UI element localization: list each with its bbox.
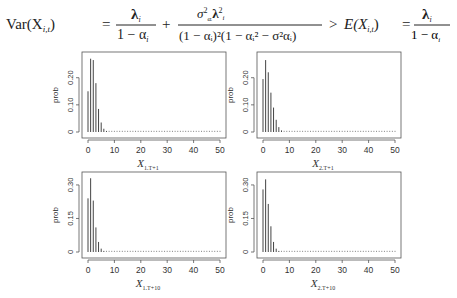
plot-frame (257, 172, 401, 258)
y-tick-label: 0.30 (241, 178, 250, 193)
frac2-numerator: σ2αᵢλ2i (197, 6, 225, 23)
x-tick-label: 50 (390, 145, 400, 155)
plot-frame (257, 52, 401, 138)
y-tick-label: 0 (241, 130, 250, 134)
plot-frame (82, 172, 226, 258)
equals-sign: = (102, 16, 110, 32)
x-tick-label: 10 (110, 145, 120, 155)
y-tick-label: 0.10 (241, 98, 250, 113)
y-axis-label: prob (226, 206, 235, 223)
x-tick-label: 0 (261, 145, 266, 155)
x-tick-label: 0 (86, 145, 91, 155)
y-tick-label: 0.20 (241, 70, 250, 85)
y-tick-label: 0.20 (66, 70, 75, 85)
frac3-numerator: λi (422, 6, 432, 24)
x-tick-label: 0 (86, 265, 91, 275)
x-tick-label: 50 (390, 265, 400, 275)
x-tick-label: 10 (110, 265, 120, 275)
formula-lhs: Var(Xi,t) (6, 16, 55, 34)
variance-formula: Var(Xi,t) = λi 1 − αi + σ2αᵢλ2i (1 − αᵢ)… (4, 4, 456, 44)
x-tick-label: 50 (215, 145, 225, 155)
x-axis-label: X1,T+1 (136, 157, 158, 170)
y-tick-label: 0.15 (66, 211, 75, 226)
y-tick-label: 0.30 (66, 178, 75, 193)
greater-than-sign: > (329, 16, 337, 32)
y-tick-label: 0.10 (66, 98, 75, 113)
x-tick-label: 10 (285, 145, 295, 155)
x-axis-label: X1,T+10 (135, 277, 160, 290)
frac1-denominator: 1 − αi (117, 27, 148, 44)
x-tick-label: 20 (136, 145, 146, 155)
x-tick-label: 20 (311, 145, 321, 155)
plus-sign: + (162, 16, 170, 32)
plot-frame (82, 52, 226, 138)
x-tick-label: 0 (261, 265, 266, 275)
frac2-denominator: (1 − αᵢ)²(1 − αᵢ² − σ²αᵢ) (179, 28, 296, 43)
x-tick-label: 10 (285, 265, 295, 275)
expectation: E(Xi,t) (343, 16, 379, 34)
y-tick-label: 0 (241, 250, 250, 254)
y-tick-label: 0.15 (241, 211, 250, 226)
y-tick-label: 0 (66, 250, 75, 254)
x-tick-label: 30 (337, 265, 347, 275)
pmf-plot-x2-t1: 0102030405000.100.20probX2,T+1 (225, 50, 405, 174)
x-axis-label: X2,T+10 (310, 277, 335, 290)
x-tick-label: 40 (189, 265, 199, 275)
x-tick-label: 40 (364, 145, 374, 155)
y-axis-label: prob (51, 86, 60, 103)
bars (263, 60, 395, 132)
y-axis-label: prob (226, 86, 235, 103)
x-tick-label: 40 (364, 265, 374, 275)
equals-sign-2: = (402, 16, 410, 32)
x-tick-label: 50 (215, 265, 225, 275)
bars (88, 59, 220, 132)
y-tick-label: 0 (66, 130, 75, 134)
y-axis-label: prob (51, 206, 60, 223)
bars (263, 179, 395, 252)
x-tick-label: 30 (337, 145, 347, 155)
x-tick-label: 20 (136, 265, 146, 275)
x-axis-label: X2,T+1 (311, 157, 333, 170)
x-tick-label: 30 (162, 145, 172, 155)
bars (88, 178, 220, 252)
x-tick-label: 30 (162, 265, 172, 275)
x-tick-label: 40 (189, 145, 199, 155)
frac1-numerator: λi (131, 6, 141, 24)
pmf-plot-x2-t10: 0102030405000.150.30probX2,T+10 (225, 170, 405, 294)
x-tick-label: 20 (311, 265, 321, 275)
pmf-plot-x1-t10: 0102030405000.150.30probX1,T+10 (50, 170, 230, 294)
pmf-plot-x1-t1: 0102030405000.100.20probX1,T+1 (50, 50, 230, 174)
